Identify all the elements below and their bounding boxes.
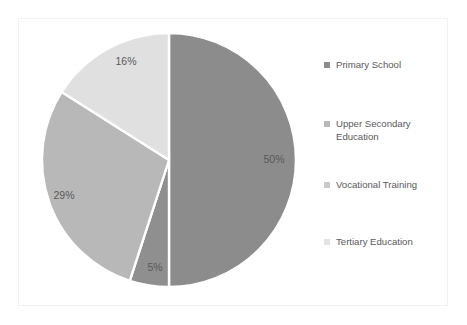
pie-chart-object[interactable]: 50% 5% 29% 16% Primary School Upper Seco… xyxy=(0,0,467,325)
legend-label-primary-school: Primary School xyxy=(336,58,401,71)
legend-item-tertiary-education[interactable]: Tertiary Education xyxy=(324,235,456,248)
slice-label-vocational-training: 5% xyxy=(147,261,162,273)
slice-label-upper-secondary-education: 29% xyxy=(53,189,74,201)
square-marker-icon xyxy=(324,182,330,188)
legend-label-tertiary-education: Tertiary Education xyxy=(336,235,413,248)
legend-item-vocational-training[interactable]: Vocational Training xyxy=(324,178,456,191)
legend-label-vocational-training: Vocational Training xyxy=(336,178,417,191)
legend-label-upper-secondary-education: Upper Secondary Education xyxy=(336,117,411,143)
square-marker-icon xyxy=(324,121,330,127)
legend-item-upper-secondary-education[interactable]: Upper Secondary Education xyxy=(324,117,456,143)
square-marker-icon xyxy=(324,62,330,68)
legend-item-primary-school[interactable]: Primary School xyxy=(324,58,456,71)
square-marker-icon xyxy=(324,239,330,245)
slice-label-tertiary-education: 16% xyxy=(115,55,136,67)
slice-label-primary-school: 50% xyxy=(263,153,284,165)
chart-legend[interactable]: Primary School Upper Secondary Education… xyxy=(324,58,456,258)
